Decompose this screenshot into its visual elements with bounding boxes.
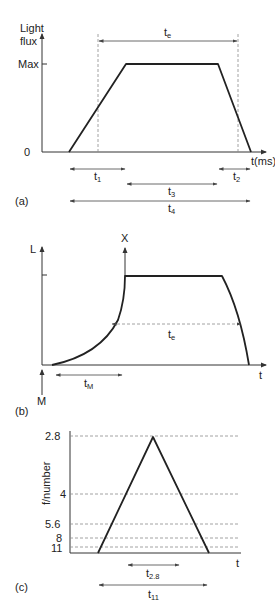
panel-c-aperture-chart: f/number t 2.8 4 5.6 8 11 t2.8 (c) t11 bbox=[15, 430, 241, 602]
x-axis-label-t: t bbox=[236, 557, 239, 569]
y-tick-4: 4 bbox=[60, 488, 66, 500]
y-tick-zero: 0 bbox=[24, 146, 30, 158]
t2-label: t2 bbox=[233, 170, 240, 184]
panel-a-light-flux-chart: Light flux Max 0 t(ms) te t1 t2 t3 (a) t… bbox=[15, 22, 275, 216]
y-tick-5-6: 5.6 bbox=[45, 518, 60, 530]
panel-c-label: (c) bbox=[15, 581, 28, 593]
marker-x-label: X bbox=[121, 232, 129, 244]
panel-b-label: (b) bbox=[15, 405, 28, 417]
te-label: te bbox=[168, 328, 175, 342]
te-label: te bbox=[164, 26, 171, 40]
y-axis-label-light: Light bbox=[20, 22, 44, 34]
t3-label: t3 bbox=[168, 185, 175, 199]
shutter-timing-diagrams: Light flux Max 0 t(ms) te t1 t2 t3 (a) t… bbox=[0, 0, 275, 608]
t11-label: t11 bbox=[148, 588, 159, 602]
aperture-triangle bbox=[98, 437, 209, 553]
y-tick-2-8: 2.8 bbox=[45, 430, 60, 442]
panel-a-label: (a) bbox=[15, 195, 28, 207]
t1-label: t1 bbox=[94, 170, 101, 184]
light-flux-trapezoid bbox=[69, 64, 251, 152]
y-tick-11: 11 bbox=[51, 542, 62, 554]
y-tick-max: Max bbox=[18, 58, 39, 70]
panel-b-curtain-chart: L t X te M tM (b) bbox=[15, 232, 266, 417]
y-axis-label-fnumber: f/number bbox=[40, 461, 52, 505]
y-axis-label-l: L bbox=[30, 243, 36, 255]
curtain-exposure-curve bbox=[52, 276, 249, 365]
y-axis-label-flux: flux bbox=[20, 35, 38, 47]
t4-label: t4 bbox=[168, 202, 175, 216]
x-axis-label-tms: t(ms) bbox=[251, 155, 275, 167]
t28-label: t2.8 bbox=[146, 567, 160, 581]
marker-m-label: M bbox=[37, 395, 46, 407]
tm-label: tM bbox=[84, 377, 93, 391]
x-axis-label-t: t bbox=[259, 369, 262, 381]
